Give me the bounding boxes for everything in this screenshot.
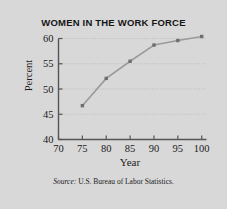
data-point-marker	[128, 60, 131, 63]
data-point-marker	[176, 39, 179, 42]
x-tick-label: 80	[101, 143, 112, 154]
source-note: Source: U.S. Bureau of Labor Statistics.	[0, 177, 227, 186]
data-point-markers-group	[81, 35, 204, 108]
x-tick-label: 100	[194, 143, 210, 154]
x-axis-label: Year	[55, 156, 205, 168]
x-tick-label: 90	[149, 143, 160, 154]
chart-figure: WOMEN IN THE WORK FORCE 4045505560 70758…	[0, 0, 227, 209]
y-tick-label: 55	[43, 58, 54, 69]
y-tick-label: 50	[43, 84, 54, 95]
x-tick-label: 75	[77, 143, 88, 154]
y-axis-ticks-group: 4045505560	[43, 33, 63, 145]
data-point-marker	[81, 104, 84, 107]
gridlines-group	[59, 39, 207, 140]
x-tick-label: 85	[125, 143, 136, 154]
x-axis-ticks-group: 707580859095100	[53, 136, 209, 154]
data-point-marker	[200, 35, 203, 38]
data-point-marker	[152, 43, 155, 46]
x-tick-label: 70	[53, 143, 64, 154]
x-tick-label: 95	[173, 143, 184, 154]
data-series-line	[82, 36, 201, 105]
y-tick-label: 45	[43, 109, 54, 120]
source-text: U.S. Bureau of Labor Statistics.	[76, 177, 174, 186]
y-axis-label: Percent	[23, 46, 34, 106]
y-tick-label: 60	[43, 33, 54, 44]
data-point-marker	[105, 77, 108, 80]
source-label: Source:	[53, 177, 76, 186]
y-tick-label: 40	[43, 134, 54, 145]
